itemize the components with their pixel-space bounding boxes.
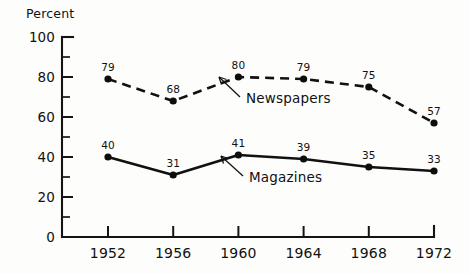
y-tick-label: 0 [46, 229, 55, 245]
data-point-value-label: 31 [166, 157, 180, 169]
data-point-marker [170, 97, 177, 104]
data-point-value-label: 68 [166, 83, 180, 95]
y-axis-tick-labels: 020406080100 [29, 29, 55, 245]
data-point-marker [170, 171, 177, 178]
series-label-magazines: Magazines [249, 169, 322, 185]
magazines-annotation-leader [221, 156, 243, 176]
data-point-value-label: 79 [101, 61, 115, 73]
data-point-marker [300, 155, 307, 162]
data-point-value-label: 57 [427, 105, 441, 117]
x-tick-label: 1956 [155, 245, 191, 261]
y-tick-label: 100 [29, 29, 55, 45]
x-axis-tick-labels: 195219561960196419681972 [90, 245, 452, 261]
data-point-value-label: 33 [427, 153, 441, 165]
series-value-labels-magazines: 403141393533 [101, 137, 441, 169]
series-value-labels-newspapers: 796880797557 [101, 59, 441, 117]
data-point-marker [365, 83, 372, 90]
x-tick-label: 1968 [351, 245, 387, 261]
data-point-marker [104, 75, 111, 82]
data-point-value-label: 79 [297, 61, 311, 73]
data-point-marker [365, 163, 372, 170]
chart-figure: Percent 020406080100 1952195619601964196… [0, 0, 469, 274]
data-point-marker [104, 153, 111, 160]
data-point-marker [430, 119, 437, 126]
x-tick-label: 1972 [416, 245, 452, 261]
data-point-value-label: 39 [297, 141, 311, 153]
series-label-newspapers: Newspapers [246, 90, 331, 106]
data-point-value-label: 40 [101, 139, 115, 151]
x-axis-ticks [108, 226, 434, 237]
data-point-value-label: 35 [362, 149, 376, 161]
data-point-marker [300, 75, 307, 82]
data-point-value-label: 80 [232, 59, 246, 71]
y-tick-label: 20 [38, 189, 55, 205]
data-point-marker [235, 151, 242, 158]
x-tick-label: 1960 [220, 245, 256, 261]
x-tick-label: 1952 [90, 245, 126, 261]
y-tick-label: 60 [38, 109, 55, 125]
y-axis-minor-ticks [62, 57, 70, 217]
x-tick-label: 1964 [285, 245, 321, 261]
line-chart: Percent 020406080100 1952195619601964196… [0, 0, 469, 274]
data-point-value-label: 41 [232, 137, 246, 149]
data-point-value-label: 75 [362, 69, 376, 81]
data-point-marker [235, 73, 242, 80]
data-point-marker [430, 167, 437, 174]
y-tick-label: 40 [38, 149, 55, 165]
y-tick-label: 80 [38, 69, 55, 85]
y-axis-title: Percent [26, 6, 74, 21]
